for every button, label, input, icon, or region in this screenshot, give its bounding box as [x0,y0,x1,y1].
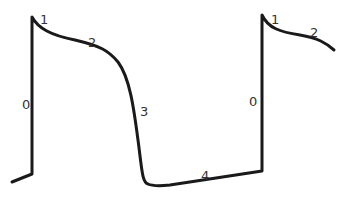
label-phase0-first: 0 [22,97,30,112]
action-potential-trace [12,15,334,186]
action-potential-diagram: 0 1 2 3 4 0 1 2 [0,0,345,199]
label-phase1-second: 1 [271,12,279,27]
action-potential-svg: 0 1 2 3 4 0 1 2 [0,0,345,199]
label-phase1-first: 1 [40,12,48,27]
label-phase4: 4 [201,168,209,183]
label-phase3: 3 [140,104,148,119]
label-phase0-second: 0 [249,94,257,109]
label-phase2-first: 2 [88,35,96,50]
label-phase2-second: 2 [310,25,318,40]
